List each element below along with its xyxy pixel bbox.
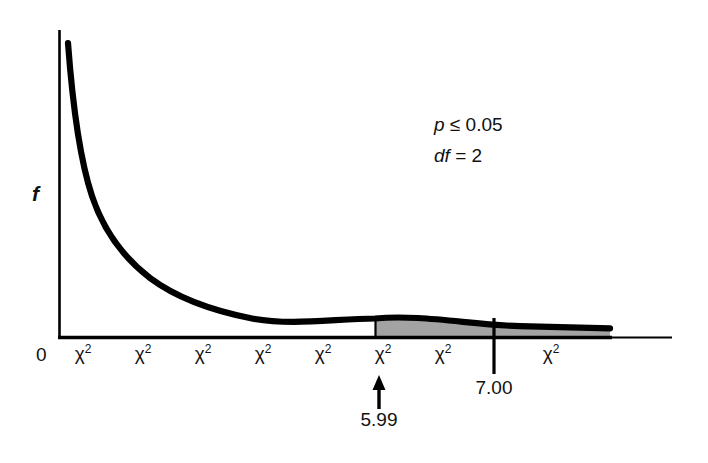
chi-square-curve [68, 43, 610, 328]
critical-value-label: 5.99 [361, 410, 398, 429]
x-axis-tick-label: χ2 [255, 344, 272, 363]
tick-exponent: 2 [145, 342, 152, 356]
tick-symbol: χ [255, 343, 265, 364]
x-axis-tick-label: χ2 [135, 344, 152, 363]
chi-square-distribution-figure: f 0 χ2 χ2 χ2 χ2 χ2 χ2 χ2 χ2 5.99 7.00 p … [0, 0, 708, 463]
plot-area [0, 0, 708, 463]
tick-exponent: 2 [265, 342, 272, 356]
tick-symbol: χ [195, 343, 205, 364]
x-axis-origin-label: 0 [36, 345, 47, 364]
tick-exponent: 2 [553, 342, 560, 356]
tick-symbol: χ [375, 343, 385, 364]
critical-value-arrow-icon [373, 375, 386, 409]
tick-exponent: 2 [325, 342, 332, 356]
significance-level-annotation: p ≤ 0.05 [434, 114, 503, 136]
x-axis-tick-label: χ2 [435, 344, 452, 363]
tick-exponent: 2 [85, 342, 92, 356]
tick-exponent: 2 [385, 342, 392, 356]
degrees-of-freedom-annotation: df = 2 [434, 145, 503, 167]
obtained-value-label: 7.00 [476, 378, 513, 397]
p-symbol: p [434, 114, 445, 135]
x-axis-tick-label: χ2 [75, 344, 92, 363]
tick-symbol: χ [315, 343, 325, 364]
tick-symbol: χ [435, 343, 445, 364]
tick-symbol: χ [543, 343, 553, 364]
x-axis-tick-label: χ2 [375, 344, 392, 363]
df-symbol: df [434, 145, 450, 166]
y-axis-label: f [32, 183, 39, 204]
statistics-annotation: p ≤ 0.05 df = 2 [434, 114, 503, 176]
tick-symbol: χ [75, 343, 85, 364]
x-axis-tick-label: χ2 [543, 344, 560, 363]
tick-exponent: 2 [445, 342, 452, 356]
x-axis-tick-label: χ2 [315, 344, 332, 363]
x-axis-tick-label: χ2 [195, 344, 212, 363]
p-value-text: ≤ 0.05 [445, 114, 503, 135]
df-value-text: = 2 [450, 145, 482, 166]
tick-symbol: χ [135, 343, 145, 364]
tick-exponent: 2 [205, 342, 212, 356]
